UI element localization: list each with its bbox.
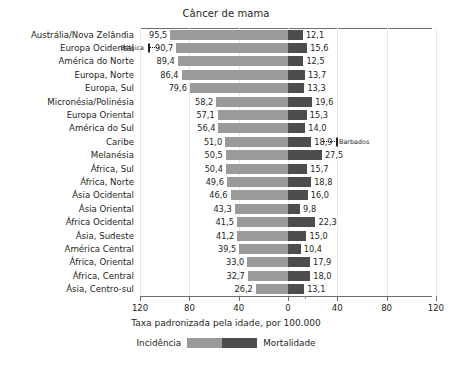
- bar-group: 26,213,1: [140, 284, 432, 294]
- category-label: África Ocidental: [66, 217, 134, 227]
- value-label-incidencia: 51,0: [201, 137, 222, 147]
- annotation-leader-barbados: [323, 141, 335, 143]
- bar-group: 90,715,6: [140, 43, 432, 53]
- bar-incidencia: [190, 83, 288, 93]
- bar-group: 32,718,0: [140, 271, 432, 281]
- legend-swatch-incidencia: [187, 338, 222, 348]
- value-label-mortalidade: 10,4: [304, 244, 322, 254]
- annotation-leader-bélgica: [150, 47, 159, 49]
- value-label-incidencia: 41,5: [213, 217, 234, 227]
- value-label-mortalidade: 15,3: [310, 110, 328, 120]
- chart-row: Ásia, Centro-sul26,213,1: [140, 283, 432, 296]
- category-label: Europa, Norte: [74, 70, 134, 80]
- value-label-incidencia: 49,6: [203, 177, 224, 187]
- bar-group: 41,215,0: [140, 231, 432, 241]
- annotation-tick-barbados: [336, 137, 338, 146]
- legend-label-incidencia: Incidência: [137, 338, 182, 348]
- value-label-mortalidade: 9,8: [303, 204, 316, 214]
- bar-mortalidade: [288, 43, 307, 53]
- bar-group: 46,616,0: [140, 190, 432, 200]
- axis-tick-label: 120: [132, 303, 148, 313]
- value-label-incidencia: 50,5: [202, 150, 223, 160]
- category-label: Caribe: [106, 137, 134, 147]
- category-label: África, Norte: [80, 177, 134, 187]
- bar-group: 50,527,5: [140, 150, 432, 160]
- chart-row: Micronésia/Polinésia58,219,6: [140, 95, 432, 108]
- x-axis-title: Taxa padronizada pela idade, por 100.000: [0, 318, 452, 328]
- value-label-mortalidade: 15,7: [310, 164, 328, 174]
- chart-title: Câncer de mama: [0, 8, 452, 19]
- chart-row: África, Central32,718,0: [140, 269, 432, 282]
- bar-group: 57,115,3: [140, 110, 432, 120]
- bar-incidencia: [235, 204, 288, 214]
- bar-mortalidade: [288, 123, 305, 133]
- bar-incidencia: [176, 43, 288, 53]
- axis-tick: [288, 296, 289, 301]
- chart-row: Europa Ocidental90,715,6: [140, 41, 432, 54]
- bar-mortalidade: [288, 190, 308, 200]
- value-label-mortalidade: 12,5: [306, 56, 324, 66]
- axis-tick: [140, 296, 141, 301]
- chart-row: Europa Oriental57,115,3: [140, 108, 432, 121]
- category-label: Ásia, Sudeste: [76, 231, 134, 241]
- chart-row: África, Oriental33,017,9: [140, 256, 432, 269]
- axis-tick-label: 80: [184, 303, 195, 313]
- value-label-incidencia: 56,4: [194, 123, 215, 133]
- category-label: América do Norte: [58, 56, 134, 66]
- value-label-mortalidade: 27,5: [325, 150, 343, 160]
- axis-tick: [436, 296, 437, 301]
- bar-incidencia: [218, 110, 288, 120]
- value-label-mortalidade: 18,8: [314, 177, 332, 187]
- bar-mortalidade: [288, 97, 312, 107]
- category-label: América Central: [65, 244, 134, 254]
- value-label-mortalidade: 15,0: [309, 231, 327, 241]
- bar-incidencia: [218, 123, 288, 133]
- axis-tick-label: 80: [381, 303, 392, 313]
- bar-mortalidade: [288, 150, 322, 160]
- bar-incidencia: [237, 217, 288, 227]
- value-label-incidencia: 95,5: [146, 30, 167, 40]
- category-label: Ásia, Centro-sul: [66, 284, 134, 294]
- value-label-mortalidade: 22,3: [318, 217, 336, 227]
- value-label-mortalidade: 16,0: [311, 190, 329, 200]
- bar-mortalidade: [288, 284, 304, 294]
- value-label-mortalidade: 19,6: [315, 97, 333, 107]
- axis-tick: [337, 296, 338, 301]
- bar-incidencia: [178, 56, 288, 66]
- bar-group: 79,613,3: [140, 83, 432, 93]
- category-label: Ásia Oriental: [79, 204, 134, 214]
- gridline-120: [436, 28, 437, 296]
- axis-tick-label: 40: [332, 303, 343, 313]
- axis-tick-minor: [305, 296, 306, 299]
- chart-row: Austrália/Nova Zelândia95,512,1: [140, 28, 432, 41]
- value-label-incidencia: 39,5: [215, 244, 236, 254]
- bar-mortalidade: [288, 177, 311, 187]
- bar-mortalidade: [288, 244, 301, 254]
- bar-incidencia: [231, 190, 288, 200]
- chart-row: América Central39,510,4: [140, 242, 432, 255]
- axis-tick: [189, 296, 190, 301]
- value-label-incidencia: 43,3: [211, 204, 232, 214]
- category-label: África, Sul: [91, 164, 134, 174]
- bar-group: 39,510,4: [140, 244, 432, 254]
- category-label: Melanésia: [91, 150, 134, 160]
- category-label: Ásia Ocidental: [72, 190, 134, 200]
- category-label: Micronésia/Polinésia: [47, 97, 134, 107]
- bar-mortalidade: [288, 217, 315, 227]
- value-label-incidencia: 26,2: [232, 284, 253, 294]
- bar-group: 50,415,7: [140, 164, 432, 174]
- value-label-mortalidade: 17,9: [313, 257, 331, 267]
- breast-cancer-diverging-bar-chart: Câncer de mama Austrália/Nova Zelândia95…: [0, 0, 452, 367]
- value-label-incidencia: 58,2: [192, 97, 213, 107]
- legend-swatch-mortalidade: [222, 338, 257, 348]
- bar-incidencia: [248, 271, 288, 281]
- value-label-mortalidade: 14,0: [308, 123, 326, 133]
- value-label-mortalidade: 15,6: [310, 43, 328, 53]
- chart-row: África, Norte49,618,8: [140, 175, 432, 188]
- bar-group: 43,39,8: [140, 204, 432, 214]
- axis-tick-label: 120: [428, 303, 444, 313]
- bar-group: 33,017,9: [140, 257, 432, 267]
- bar-group: 49,618,8: [140, 177, 432, 187]
- bar-incidencia: [227, 177, 288, 187]
- chart-row: Caribe51,018,9: [140, 135, 432, 148]
